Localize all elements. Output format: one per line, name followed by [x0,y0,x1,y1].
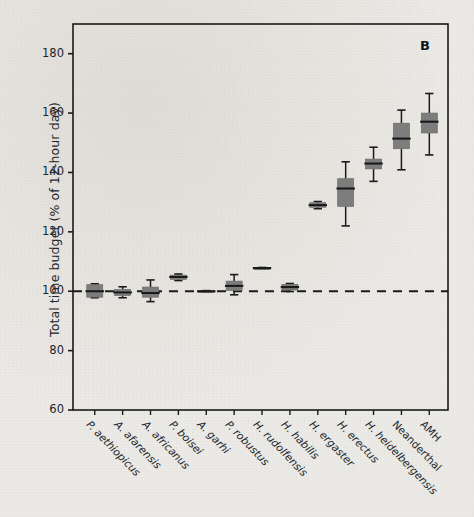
boxplot-h-habilis [281,284,299,292]
boxplot-a-garhi [197,291,215,293]
y-axis-tick-label: 60 [24,402,64,416]
y-axis-tick-label: 140 [24,164,64,178]
panel-letter-label: B [420,38,430,53]
box-iqr [421,113,437,133]
boxplot-p-aethiopicus [86,284,104,298]
boxplot-h-ergaster [309,202,327,209]
boxplot-amh [420,93,438,154]
boxplot-figure: Total time budget (% of 12-hour day) B 6… [0,0,474,517]
boxplot-p-boisei [169,274,187,281]
y-axis-tick-label: 100 [24,283,64,297]
y-axis-tick-label: 180 [24,46,64,60]
box-iqr [393,123,409,149]
boxplot-neanderthal [392,110,410,170]
boxplot-a-afarensis [113,287,131,298]
y-axis-tick-label: 160 [24,105,64,119]
plot-frame [73,24,448,410]
y-axis-tick-label: 80 [24,343,64,357]
boxplot-h-rudolfensis [253,267,271,269]
boxplot-h-heidelbergensis [364,147,382,181]
boxplot-a-africanus [141,280,159,302]
boxplot-h-erectus [336,162,354,226]
box-iqr [338,179,354,207]
y-axis-tick-label: 120 [24,224,64,238]
